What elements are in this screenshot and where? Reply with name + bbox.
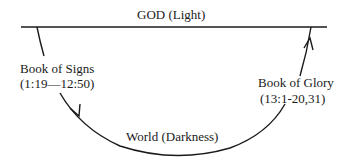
top-label: GOD (Light) (137, 7, 205, 22)
world-arc (60, 93, 285, 156)
descent-ascent-diagram: GOD (Light) Book of Signs (1:19—12:50) B… (0, 0, 358, 168)
left-label-range: (1:19—12:50) (20, 76, 94, 91)
right-label-range: (13:1-20,31) (260, 91, 325, 106)
ascent-top-stroke (300, 27, 311, 76)
descent-top-stroke (37, 27, 44, 56)
right-label-title: Book of Glory (258, 75, 334, 90)
bottom-label: World (Darkness) (126, 129, 218, 144)
left-label-title: Book of Signs (20, 61, 94, 76)
